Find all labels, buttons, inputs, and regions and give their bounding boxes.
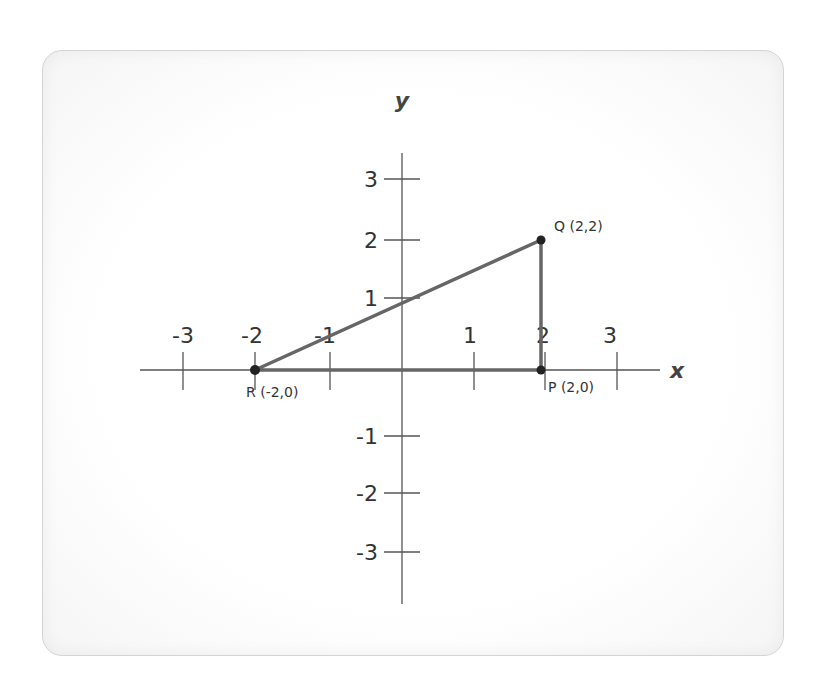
point-r-label: R (-2,0) (246, 384, 298, 400)
point-q-label: Q (2,2) (554, 218, 603, 234)
x-tick-label: 1 (463, 323, 477, 348)
point-p-label: P (2,0) (548, 379, 594, 395)
y-tick-label: 3 (364, 167, 378, 192)
point-r (250, 365, 260, 375)
x-tick-label: -3 (172, 323, 194, 348)
y-tick-label: -2 (356, 481, 378, 506)
x-tick-label: -2 (241, 323, 263, 348)
point-p (537, 366, 546, 375)
triangle-pqr (255, 240, 541, 370)
y-tick-label: -1 (356, 424, 378, 449)
x-axis-label: x (669, 358, 685, 383)
y-axis-label: y (395, 88, 411, 113)
y-tick-label: -3 (356, 540, 378, 565)
x-tick-label: 3 (603, 323, 617, 348)
coordinate-plane: -3 -2 -1 1 2 3 3 2 1 -1 -2 -3 y x Q (2,2… (0, 0, 817, 688)
y-tick-label: 1 (364, 286, 378, 311)
y-tick-label: 2 (364, 228, 378, 253)
point-q (537, 236, 546, 245)
x-tick-label: 2 (536, 323, 550, 348)
